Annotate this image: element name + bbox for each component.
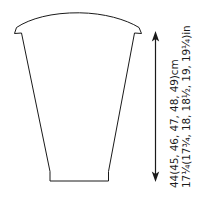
vertical-dimension-arrow xyxy=(152,31,159,182)
pattern-schematic: 44(45, 46, 47, 48, 49)cm 17¼(17¾, 18, 18… xyxy=(0,0,203,210)
garment-piece-outline xyxy=(15,13,142,181)
measurement-in-text: 17¼(17¾, 18, 18½, 19, 19¼)in xyxy=(180,25,192,188)
vertical-measurement-label: 44(45, 46, 47, 48, 49)cm 17¼(17¾, 18, 18… xyxy=(168,25,192,188)
measurement-cm-text: 44(45, 46, 47, 48, 49)cm xyxy=(168,25,180,188)
